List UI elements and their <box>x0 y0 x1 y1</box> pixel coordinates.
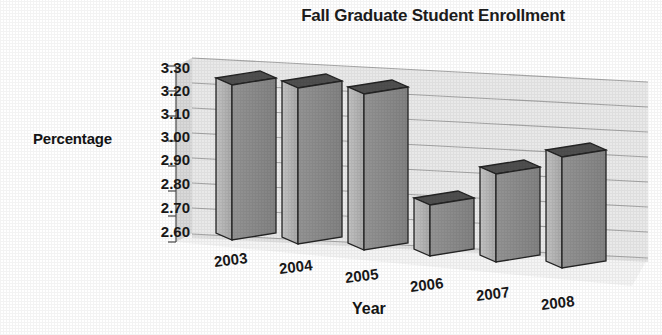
x-tick-label: 2005 <box>344 265 379 286</box>
x-tick-label: 2007 <box>475 283 510 304</box>
x-tick-label: 2003 <box>213 249 248 270</box>
x-tick-label: 2006 <box>409 274 444 295</box>
x-tick-labels: 200320042005200620072008 <box>0 0 662 335</box>
x-tick-label: 2008 <box>540 292 575 313</box>
bar-chart: Fall Graduate Student Enrollment Percent… <box>0 0 662 335</box>
x-tick-label: 2004 <box>278 256 313 277</box>
